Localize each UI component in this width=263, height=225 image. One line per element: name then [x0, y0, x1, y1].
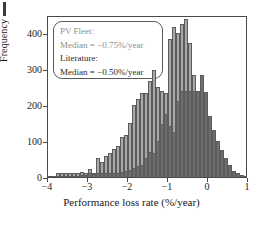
x-tick-mark [207, 178, 208, 182]
y-axis-label: Frequency [0, 19, 9, 62]
histogram-bar [244, 176, 247, 177]
y-tick-mark [43, 34, 47, 35]
x-axis-label: Performance loss rate (%/year) [0, 196, 263, 208]
x-tick-mark [87, 178, 88, 182]
x-tick-mark [47, 178, 48, 182]
x-tick-label: 0 [195, 181, 219, 193]
y-tick-label: 200 [14, 101, 42, 111]
legend-fleet-median: Median = −0.75%/year [60, 39, 157, 53]
figure-container: 0100200300400 Frequency −4−3−2−101 Perfo… [0, 0, 263, 225]
legend-fleet-title: PV Fleet: [60, 25, 157, 39]
x-tick-label: −3 [75, 181, 99, 193]
y-tick-mark [43, 70, 47, 71]
legend-literature-title: Literature: [60, 52, 157, 66]
x-axis-tick-labels: −4−3−2−101 [0, 181, 263, 195]
y-tick-mark [43, 106, 47, 107]
y-tick-label: 300 [14, 65, 42, 75]
x-tick-label: −1 [155, 181, 179, 193]
x-tick-label: −4 [35, 181, 59, 193]
x-tick-mark [127, 178, 128, 182]
x-tick-mark [247, 178, 248, 182]
y-tick-label: 100 [14, 137, 42, 147]
x-tick-label: −2 [115, 181, 139, 193]
figure-corner-mark [3, 2, 6, 16]
x-tick-label: 1 [235, 181, 259, 193]
legend: PV Fleet: Median = −0.75%/year Literatur… [53, 21, 163, 79]
legend-literature-median: Median = −0.50%/year [60, 66, 157, 80]
y-tick-label: 400 [14, 29, 42, 39]
x-tick-mark [167, 178, 168, 182]
y-tick-mark [43, 142, 47, 143]
